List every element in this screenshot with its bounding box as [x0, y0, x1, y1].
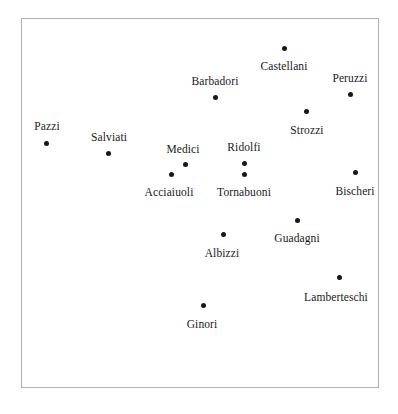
point-marker-icon	[221, 232, 226, 237]
point-label: Ginori	[187, 318, 218, 330]
point-marker-icon	[169, 172, 174, 177]
point-marker-icon	[282, 46, 287, 51]
point-label: Bischeri	[335, 185, 374, 197]
point-label: Lamberteschi	[304, 291, 368, 303]
point-label: Peruzzi	[332, 72, 367, 84]
point-label: Strozzi	[290, 124, 323, 136]
point-marker-icon	[183, 162, 188, 167]
point-label: Albizzi	[205, 247, 240, 259]
point-label: Salviati	[91, 131, 127, 143]
point-marker-icon	[304, 109, 309, 114]
point-marker-icon	[337, 275, 342, 280]
point-label: Medici	[166, 143, 199, 155]
point-marker-icon	[242, 172, 247, 177]
scatter-plot-figure: CastellaniPeruzziBarbadoriStrozziPazziSa…	[0, 0, 398, 414]
point-label: Pazzi	[34, 120, 59, 132]
point-label: Tornabuoni	[217, 186, 271, 198]
plot-frame: CastellaniPeruzziBarbadoriStrozziPazziSa…	[21, 18, 379, 388]
point-marker-icon	[295, 218, 300, 223]
point-label: Acciaiuoli	[145, 186, 194, 198]
point-marker-icon	[348, 92, 353, 97]
point-marker-icon	[353, 170, 358, 175]
point-marker-icon	[106, 151, 111, 156]
point-label: Ridolfi	[227, 141, 260, 153]
point-marker-icon	[201, 303, 206, 308]
point-label: Guadagni	[274, 232, 320, 244]
point-label: Barbadori	[192, 75, 239, 87]
point-label: Castellani	[261, 60, 308, 72]
point-marker-icon	[44, 141, 49, 146]
point-marker-icon	[213, 95, 218, 100]
point-marker-icon	[242, 161, 247, 166]
